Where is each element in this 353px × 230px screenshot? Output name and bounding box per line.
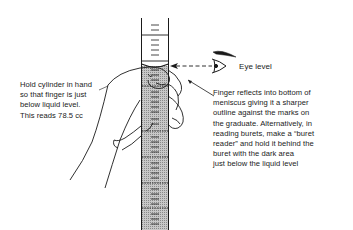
note-line: just below the liquid level	[213, 159, 298, 168]
note-line: reader” and hold it behind the	[213, 139, 314, 148]
note-line: the graduate. Alternatively, in	[213, 119, 312, 128]
eye-level-arrow	[170, 63, 212, 69]
eye-icon	[212, 51, 236, 73]
eye-level-label: Eye level	[239, 62, 272, 72]
liquid	[142, 66, 168, 230]
note-line: Finger reflects into bottom of	[213, 88, 311, 97]
note-line: This reads 78.5 cc	[20, 111, 83, 120]
note-line: so that finger is just	[20, 90, 87, 99]
left-instruction-note: Hold cylinder in hand so that finger is …	[20, 80, 92, 121]
pointer-line	[188, 80, 214, 96]
cylinder	[142, 18, 169, 230]
note-line: outline against the marks on	[213, 108, 309, 117]
note-line: buret with the dark area	[213, 149, 294, 158]
note-line: meniscus giving it a sharper	[213, 98, 309, 107]
note-line: reading burets, make a “buret	[213, 129, 314, 138]
note-line: Hold cylinder in hand	[20, 80, 92, 89]
right-explanation-note: Finger reflects into bottom of meniscus …	[213, 88, 314, 170]
note-line: below liquid level.	[20, 100, 80, 109]
